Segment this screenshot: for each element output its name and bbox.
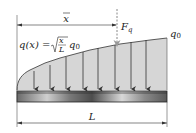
beam-load-diagram: x Fq q(x) = x L q0 q0 L [0, 0, 196, 133]
xbar-label: x [63, 13, 69, 24]
length-arrow-right-icon [162, 122, 167, 125]
svg-text:q(x) =: q(x) = [19, 39, 50, 50]
xbar-arrow-left-icon [17, 24, 22, 27]
length-label: L [88, 111, 96, 122]
beam [17, 91, 167, 102]
svg-text:L: L [58, 45, 64, 54]
force-label: Fq [120, 21, 133, 34]
svg-text:x: x [59, 36, 64, 45]
svg-text:q0: q0 [69, 39, 80, 51]
load-function-formula: q(x) = x L q0 [19, 36, 80, 54]
q0-label: q0 [170, 28, 181, 40]
xbar-arrow-right-icon [112, 24, 117, 27]
length-arrow-left-icon [17, 122, 22, 125]
